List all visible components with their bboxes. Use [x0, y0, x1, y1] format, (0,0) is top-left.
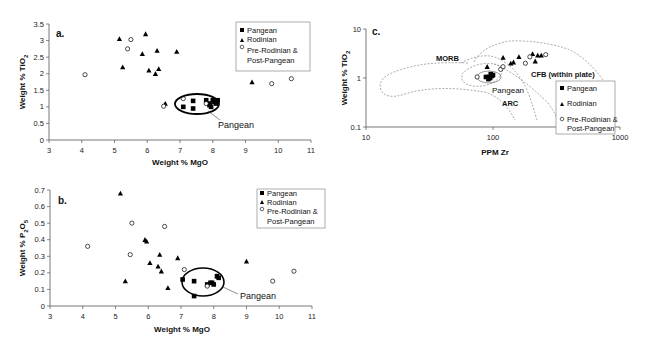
- y-tick-label: 1.5: [34, 86, 44, 95]
- pangean-point: [211, 282, 216, 287]
- y-tick-label: 0.2: [35, 268, 45, 277]
- pangean-point: [487, 75, 492, 80]
- square-marker-icon: [260, 191, 264, 195]
- y-tick-label: 0.3: [35, 252, 45, 261]
- pangean-point: [192, 279, 197, 284]
- x-tick-label: 5: [113, 312, 117, 321]
- pre-rodinian-point: [126, 47, 130, 51]
- svg-text:Rodinian: Rodinian: [247, 35, 277, 44]
- pre-rodinian-point: [475, 75, 479, 79]
- rodinian-point: [165, 285, 170, 290]
- pre-rodinian-point: [528, 55, 532, 59]
- chart-a-x-label: Weight % MgO: [152, 158, 208, 167]
- rodinian-point: [147, 260, 152, 265]
- pre-rodinian-point: [130, 221, 134, 225]
- y-tick-label: 0.7: [35, 186, 45, 195]
- pre-rodinian-point: [163, 224, 167, 228]
- y-tick-label: 1: [357, 74, 361, 83]
- x-tick-label: 4: [81, 312, 85, 321]
- y-tick-label: 0: [40, 136, 44, 145]
- rodinian-point: [485, 64, 490, 69]
- pre-rodinian-point: [204, 101, 208, 105]
- pre-rodinian-point: [271, 279, 275, 283]
- morb-label: MORB: [436, 54, 459, 63]
- svg-text:Rodinian: Rodinian: [267, 198, 297, 207]
- y-tick-label: 0: [41, 302, 45, 311]
- x-tick-label: 5: [112, 146, 116, 155]
- svg-text:Pangean: Pangean: [267, 189, 297, 198]
- chart-b-y-label: Weight % P2O5: [18, 219, 29, 276]
- square-marker-icon: [560, 86, 564, 90]
- y-tick-label: 0.5: [34, 119, 44, 128]
- pre-rodinian-point: [523, 61, 527, 65]
- x-tick-label: 4: [80, 146, 84, 155]
- rodinian-point: [156, 66, 161, 71]
- arc-label: ARC: [502, 99, 519, 108]
- pangean-point: [191, 106, 196, 111]
- y-tick-label: 0.5: [35, 219, 45, 228]
- rodinian-point: [117, 36, 122, 41]
- x-tick-label: 9: [244, 312, 248, 321]
- pre-rodinian-point: [128, 253, 132, 257]
- rodinian-point: [120, 64, 125, 69]
- pangean-point: [191, 99, 196, 104]
- chart-a-annotation: Pangean: [218, 120, 254, 130]
- x-tick-label: 1000: [612, 133, 629, 142]
- rodinian-point: [500, 55, 505, 60]
- svg-text:Post-Pangean: Post-Pangean: [267, 217, 315, 226]
- figure-canvas: a. 00.511.522.533.5 34567891011 Weight %…: [0, 0, 647, 349]
- pre-rodinian-point: [292, 269, 296, 273]
- x-tick-label: 10: [274, 146, 282, 155]
- rodinian-point: [154, 48, 159, 53]
- rodinian-point: [140, 51, 145, 56]
- pre-rodinian-point: [83, 73, 87, 77]
- pre-rodinian-point: [544, 53, 548, 57]
- x-tick-label: 10: [275, 312, 283, 321]
- chart-a-y-axis: 00.511.522.533.5: [34, 20, 49, 145]
- rodinian-point: [174, 49, 179, 54]
- x-tick-label: 8: [211, 146, 215, 155]
- y-tick-label: 0.6: [35, 202, 45, 211]
- x-tick-label: 11: [308, 312, 316, 321]
- annotation-leader: [208, 111, 220, 120]
- chart-c-y-axis: 0.1110: [351, 25, 366, 132]
- y-tick-label: 0.1: [35, 285, 45, 294]
- y-tick-label: 3: [40, 36, 44, 45]
- pre-rodinian-point: [162, 104, 166, 108]
- rodinian-point: [159, 269, 164, 274]
- x-tick-label: 8: [212, 312, 216, 321]
- chart-b-legend: Pangean Rodinian Pre-Rodinian & Post-Pan…: [257, 189, 325, 228]
- svg-text:Rodinian: Rodinian: [567, 99, 597, 108]
- rodinian-point: [244, 259, 249, 264]
- svg-text:Pre-Rodinian &: Pre-Rodinian &: [267, 207, 318, 216]
- x-tick-label: 7: [178, 146, 182, 155]
- chart-b-x-label: Weight % MgO: [154, 325, 210, 334]
- cfb-label: CFB (within plate): [531, 70, 595, 79]
- rodinian-point: [516, 54, 521, 59]
- rodinian-point: [118, 191, 123, 196]
- svg-text:Pre-Rodinian &: Pre-Rodinian &: [567, 115, 618, 124]
- chart-c-y-label: Weight % TiO2: [340, 50, 351, 105]
- chart-b-x-axis: 34567891011: [48, 306, 316, 321]
- y-tick-label: 2: [40, 69, 44, 78]
- panel-label-a: a.: [56, 28, 65, 39]
- pangean-ellipse: [182, 268, 224, 296]
- pre-rodinian-point: [129, 37, 133, 41]
- pre-rodinian-point: [205, 284, 209, 288]
- rodinian-point: [539, 53, 544, 58]
- pre-rodinian-point: [289, 77, 293, 81]
- y-tick-label: 10: [353, 25, 361, 34]
- x-tick-label: 11: [307, 146, 315, 155]
- square-marker-icon: [240, 28, 244, 32]
- rodinian-point: [153, 71, 158, 76]
- pangean-field-label: Pangean: [492, 86, 524, 95]
- rodinian-point: [533, 59, 538, 64]
- pangean-point: [181, 105, 186, 110]
- panel-label-b: b.: [58, 195, 67, 206]
- morb-inner: [462, 63, 502, 86]
- y-tick-label: 0.1: [351, 123, 361, 132]
- x-tick-label: 100: [487, 133, 500, 142]
- pre-rodinian-point: [182, 267, 186, 271]
- rodinian-point: [123, 279, 128, 284]
- rodinian-point: [155, 264, 160, 269]
